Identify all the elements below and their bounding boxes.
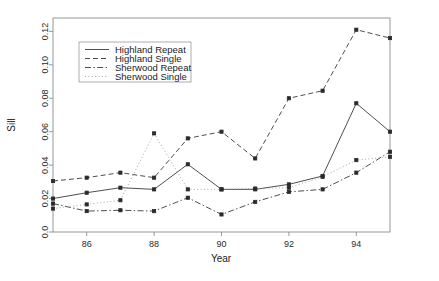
data-point-marker — [287, 186, 290, 189]
data-point-marker — [85, 191, 88, 194]
y-tick-label: 0.0 — [40, 226, 50, 239]
y-tick-label: 0.08 — [40, 89, 50, 107]
data-point-marker — [355, 159, 358, 162]
data-point-marker — [321, 175, 324, 178]
x-tick-label: 92 — [284, 239, 294, 249]
y-tick-label: 0.12 — [40, 23, 50, 41]
y-tick-label: 0.10 — [40, 56, 50, 74]
y-tick-label: 0.02 — [40, 190, 50, 208]
data-point-marker — [51, 202, 54, 205]
data-point-marker — [51, 197, 54, 200]
x-axis-title: Year — [211, 253, 232, 264]
data-point-marker — [153, 188, 156, 191]
data-point-marker — [220, 130, 223, 133]
data-point-marker — [186, 137, 189, 140]
series-line — [53, 133, 390, 208]
data-point-marker — [355, 102, 358, 105]
chart-legend: Highland RepeatHighland SingleSherwood R… — [79, 42, 191, 82]
data-point-marker — [388, 36, 391, 39]
data-point-marker — [321, 188, 324, 191]
legend-label: Sherwood Single — [115, 71, 187, 82]
data-point-marker — [51, 207, 54, 210]
y-axis-ticks: 0.00.020.040.060.080.100.12 — [40, 23, 53, 239]
data-point-marker — [220, 188, 223, 191]
data-point-marker — [355, 28, 358, 31]
data-point-marker — [254, 200, 257, 203]
data-point-marker — [119, 199, 122, 202]
y-tick-label: 0.06 — [40, 123, 50, 141]
data-point-marker — [355, 171, 358, 174]
x-tick-label: 88 — [149, 239, 159, 249]
chart-container: 0.00.020.040.060.080.100.12 8688909294 Y… — [0, 0, 439, 281]
data-point-marker — [220, 213, 223, 216]
data-point-marker — [85, 210, 88, 213]
data-point-marker — [119, 186, 122, 189]
series-line — [53, 103, 390, 198]
data-point-marker — [254, 157, 257, 160]
data-point-marker — [186, 196, 189, 199]
x-axis-ticks: 8688909294 — [82, 232, 362, 249]
y-tick-label: 0.04 — [40, 156, 50, 174]
data-point-marker — [287, 183, 290, 186]
data-point-marker — [287, 190, 290, 193]
data-point-marker — [287, 97, 290, 100]
data-point-marker — [321, 89, 324, 92]
data-point-marker — [186, 188, 189, 191]
data-point-marker — [254, 187, 257, 190]
line-chart: 0.00.020.040.060.080.100.12 8688909294 Y… — [0, 0, 439, 281]
x-tick-label: 90 — [216, 239, 226, 249]
data-point-marker — [186, 163, 189, 166]
data-point-marker — [119, 171, 122, 174]
data-point-marker — [153, 176, 156, 179]
data-point-marker — [85, 203, 88, 206]
y-axis-title: Sill — [6, 118, 17, 131]
data-point-marker — [153, 132, 156, 135]
series-line — [53, 152, 390, 215]
data-point-marker — [119, 209, 122, 212]
data-point-marker — [388, 150, 391, 153]
data-point-marker — [153, 210, 156, 213]
data-point-marker — [388, 155, 391, 158]
data-point-marker — [388, 130, 391, 133]
data-point-marker — [51, 179, 54, 182]
data-point-marker — [85, 176, 88, 179]
x-tick-label: 86 — [82, 239, 92, 249]
x-tick-label: 94 — [351, 239, 361, 249]
